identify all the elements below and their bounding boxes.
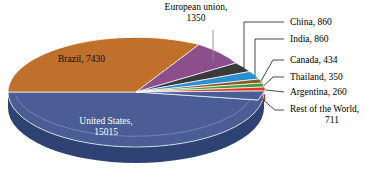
label-united-states-name: United States,: [79, 116, 132, 126]
pie-chart: European union, 1350 China, 860 India, 8…: [0, 0, 381, 188]
label-rest-of-world: Rest of the World, 711: [290, 104, 380, 125]
label-brazil: Brazil, 7430: [58, 54, 105, 65]
label-india: India, 860: [290, 34, 329, 45]
leader-china: [244, 22, 284, 68]
label-thailand: Thailand, 350: [290, 72, 343, 83]
leader-argentina: [266, 90, 284, 92]
label-european-union-value: 1350: [187, 13, 206, 23]
label-rest-of-world-value: 711: [290, 115, 374, 126]
label-european-union: European union, 1350: [146, 2, 246, 23]
label-argentina: Argentina, 260: [290, 87, 347, 98]
label-united-states-value: 15015: [94, 127, 118, 137]
leader-thailand: [264, 77, 284, 86]
leader-india: [255, 39, 284, 76]
label-european-union-name: European union,: [165, 2, 228, 12]
label-canada: Canada, 434: [290, 55, 338, 66]
label-china: China, 860: [290, 17, 332, 28]
label-united-states: United States, 15015: [54, 116, 158, 137]
leader-rest-of-world: [262, 99, 284, 110]
label-rest-of-world-name: Rest of the World,: [290, 104, 359, 114]
